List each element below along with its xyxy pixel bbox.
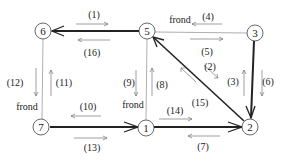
step-label: (9): [123, 77, 135, 89]
node-label: 1: [143, 122, 149, 134]
node-label: 5: [144, 25, 150, 37]
node-3: 3: [247, 25, 263, 41]
step-label: (8): [156, 79, 168, 91]
node-2: 2: [242, 119, 258, 135]
step-label: (3): [227, 76, 239, 88]
node-label: 2: [247, 121, 253, 133]
edge-3-5: [155, 32, 247, 33]
step-label: (16): [84, 47, 101, 59]
step-label: (5): [201, 46, 213, 58]
step-label: (1): [88, 9, 100, 21]
node-1: 1: [138, 120, 154, 136]
step-label: (7): [197, 141, 209, 153]
step-label: (12): [7, 77, 24, 89]
node-5: 5: [139, 23, 155, 39]
node-label: 6: [40, 25, 46, 37]
edge-5-1: [146, 39, 147, 120]
frond-label: frond: [16, 101, 38, 112]
step-label: (6): [262, 76, 274, 88]
edge-6-7: [42, 39, 43, 119]
edge-3-2: [251, 41, 254, 118]
step-label: (13): [84, 142, 101, 154]
node-label: 7: [38, 121, 44, 133]
frond-label: frond: [169, 14, 191, 25]
node-7: 7: [33, 119, 49, 135]
step-label: (14): [167, 105, 184, 117]
node-label: 3: [252, 27, 258, 39]
step-label: (4): [202, 11, 214, 23]
frond-label: frond: [122, 99, 144, 110]
step-label: (11): [56, 77, 72, 89]
step-label: (10): [80, 101, 97, 113]
node-6: 6: [35, 23, 51, 39]
graph-diagram: 6 5 3 7 1 2 (1): [0, 0, 285, 163]
step-label: (15): [192, 97, 209, 109]
step-label: (2): [204, 61, 216, 73]
